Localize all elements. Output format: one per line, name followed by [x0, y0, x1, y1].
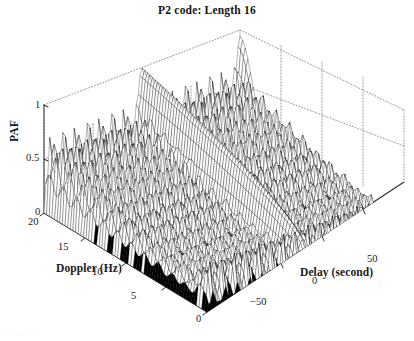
figure-3d-surface-plot: P2 code: Length 16 [0, 0, 414, 341]
z-axis-title: PAF [8, 120, 20, 142]
y-tick-label: 50 [367, 253, 378, 264]
cropped-caption-artifact: · ·· ···· ·· · ··· [2, 331, 41, 339]
x-tick-label: 15 [58, 241, 69, 252]
z-tick-label: 1 [35, 99, 40, 110]
x-tick-label: 5 [131, 290, 136, 301]
plot-canvas [0, 0, 414, 341]
x-tick-label: 0 [196, 313, 201, 324]
x-tick-label: 20 [28, 216, 39, 227]
x-axis-title: Doppler (Hz) [56, 262, 122, 274]
y-tick-label: −50 [250, 296, 266, 307]
y-tick-label: 0 [312, 275, 317, 286]
y-axis-title: Delay (second) [300, 266, 373, 278]
z-tick-label: 0.5 [26, 152, 39, 163]
x-tick-label: 10 [92, 266, 103, 277]
